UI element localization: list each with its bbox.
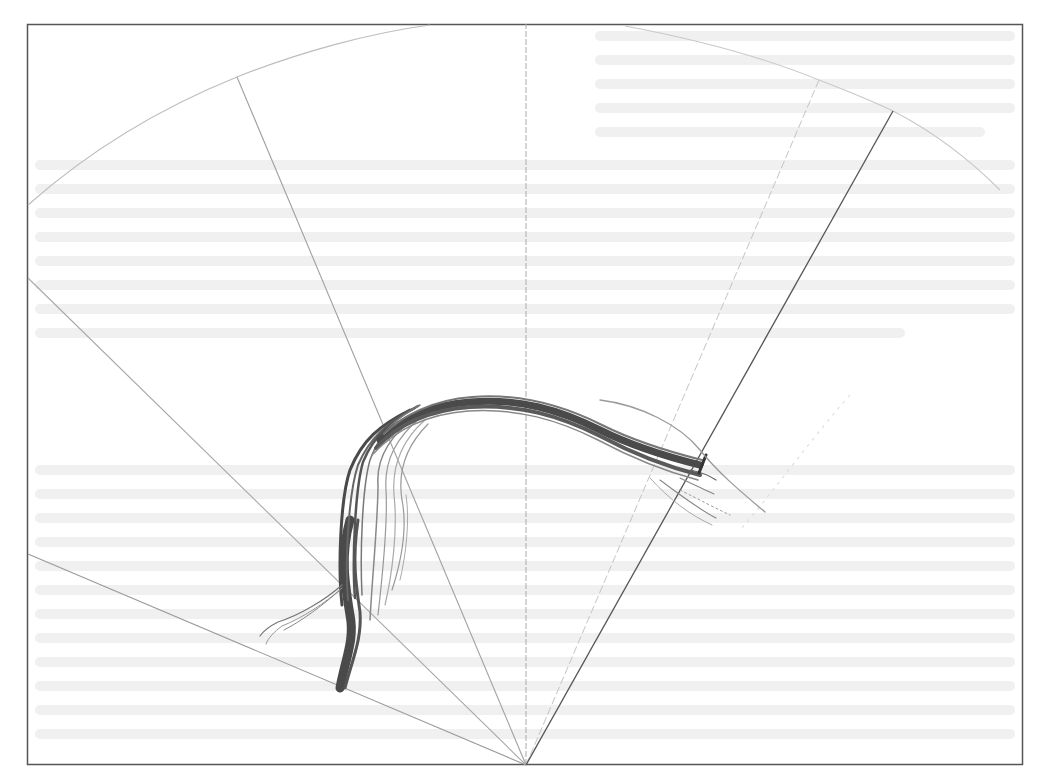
sector-diagram	[0, 0, 1052, 782]
outer-arc	[28, 25, 430, 205]
bleed-through-text	[40, 36, 1010, 734]
outer-arc-fade	[740, 395, 850, 530]
